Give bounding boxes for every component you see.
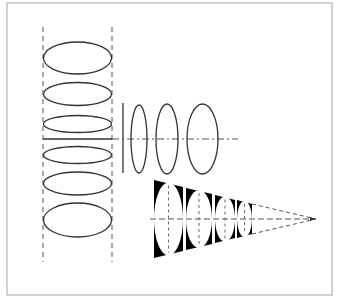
background [0,0,338,306]
ellipse-diagram [0,0,338,306]
